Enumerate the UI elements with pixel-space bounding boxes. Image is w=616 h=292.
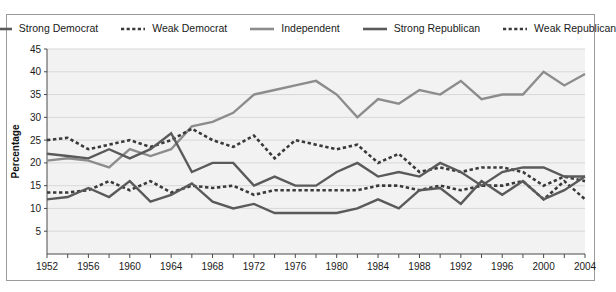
x-axis-tick-label: 1952 [36, 261, 59, 272]
x-axis-tick-label: 1972 [243, 261, 266, 272]
y-axis-tick-label: 15 [30, 180, 42, 191]
y-axis-tick-label: 10 [30, 203, 42, 214]
x-axis-tick-label: 1984 [367, 261, 390, 272]
x-axis-tick-label: 1960 [119, 261, 142, 272]
y-axis-tick-label: 30 [30, 112, 42, 123]
x-axis-tick-label: 1956 [77, 261, 100, 272]
y-axis-tick-label: 40 [30, 66, 42, 77]
legend-item[interactable]: Independent [249, 23, 339, 34]
x-axis-tick-label: 1988 [408, 261, 431, 272]
x-axis-tick-label: 1980 [326, 261, 349, 272]
y-axis-tick-label: 25 [30, 135, 42, 146]
x-axis-tick-label: 1996 [491, 261, 514, 272]
legend-swatch-solid-line-icon [0, 23, 13, 34]
legend-item[interactable]: Weak Republican [502, 23, 616, 34]
plot-area-wrapper: 5101520253035404519521956196019641968197… [7, 41, 596, 281]
legend-label: Independent [281, 23, 339, 34]
y-axis-title: Percentage [10, 124, 21, 178]
y-axis-tick-label: 20 [30, 157, 42, 168]
line-chart-svg: 5101520253035404519521956196019641968197… [7, 41, 596, 281]
chart-frame: Strong DemocratWeak DemocratIndependentS… [6, 14, 595, 281]
x-axis-tick-label: 2004 [574, 261, 596, 272]
y-axis-tick-label: 5 [35, 226, 41, 237]
legend-swatch-solid-line-icon [249, 23, 275, 34]
legend-swatch-dashed-line-icon [502, 23, 528, 34]
x-axis-tick-label: 2000 [532, 261, 555, 272]
legend-swatch-solid-line-icon [362, 23, 388, 34]
legend-label: Strong Democrat [19, 23, 98, 34]
legend-swatch-dashed-line-icon [120, 23, 146, 34]
legend-item[interactable]: Weak Democrat [120, 23, 227, 34]
y-axis-tick-label: 35 [30, 89, 42, 100]
legend-label: Weak Republican [534, 23, 616, 34]
legend-label: Weak Democrat [152, 23, 227, 34]
x-axis-tick-label: 1976 [284, 261, 307, 272]
y-axis-tick-label: 45 [30, 44, 42, 55]
x-axis-tick-label: 1968 [201, 261, 224, 272]
legend-label: Strong Republican [394, 23, 480, 34]
x-axis-tick-label: 1992 [450, 261, 473, 272]
legend-item[interactable]: Strong Democrat [0, 23, 98, 34]
legend-item[interactable]: Strong Republican [362, 23, 480, 34]
chart-legend: Strong DemocratWeak DemocratIndependentS… [7, 15, 596, 41]
x-axis-tick-label: 1964 [160, 261, 183, 272]
